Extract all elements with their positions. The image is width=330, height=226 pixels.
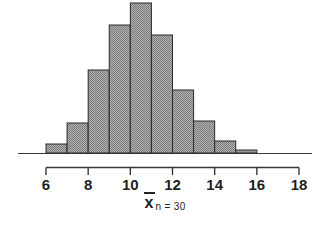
histogram-figure: 681012141618 xn = 30 <box>0 0 330 226</box>
x-axis-tick-label: 16 <box>248 176 265 193</box>
overbar-icon <box>144 192 155 194</box>
histogram-bar <box>215 141 236 153</box>
x-symbol-letter: x <box>145 194 154 211</box>
x-axis-tick-label: 6 <box>42 176 50 193</box>
histogram-plot: 681012141618 <box>0 0 330 226</box>
histogram-bar <box>88 70 109 153</box>
histogram-bar <box>151 35 172 153</box>
x-axis-label: xn = 30 <box>0 194 330 212</box>
x-axis <box>46 168 299 176</box>
x-axis-tick-labels: 681012141618 <box>42 176 308 193</box>
x-axis-tick-label: 10 <box>122 176 139 193</box>
histogram-bar <box>109 25 130 153</box>
sample-size-annotation: n = 30 <box>156 201 186 212</box>
histogram-bar <box>194 121 215 153</box>
x-axis-tick-label: 8 <box>84 176 92 193</box>
x-bar-symbol: x <box>145 195 154 211</box>
x-axis-tick-label: 14 <box>206 176 223 193</box>
histogram-bars <box>46 3 257 153</box>
histogram-bar <box>46 144 67 153</box>
x-axis-tick-label: 12 <box>164 176 181 193</box>
histogram-bar <box>173 90 194 153</box>
histogram-bar <box>67 123 88 153</box>
histogram-bar <box>236 150 257 153</box>
x-axis-tick-label: 18 <box>291 176 308 193</box>
histogram-bar <box>130 3 151 153</box>
